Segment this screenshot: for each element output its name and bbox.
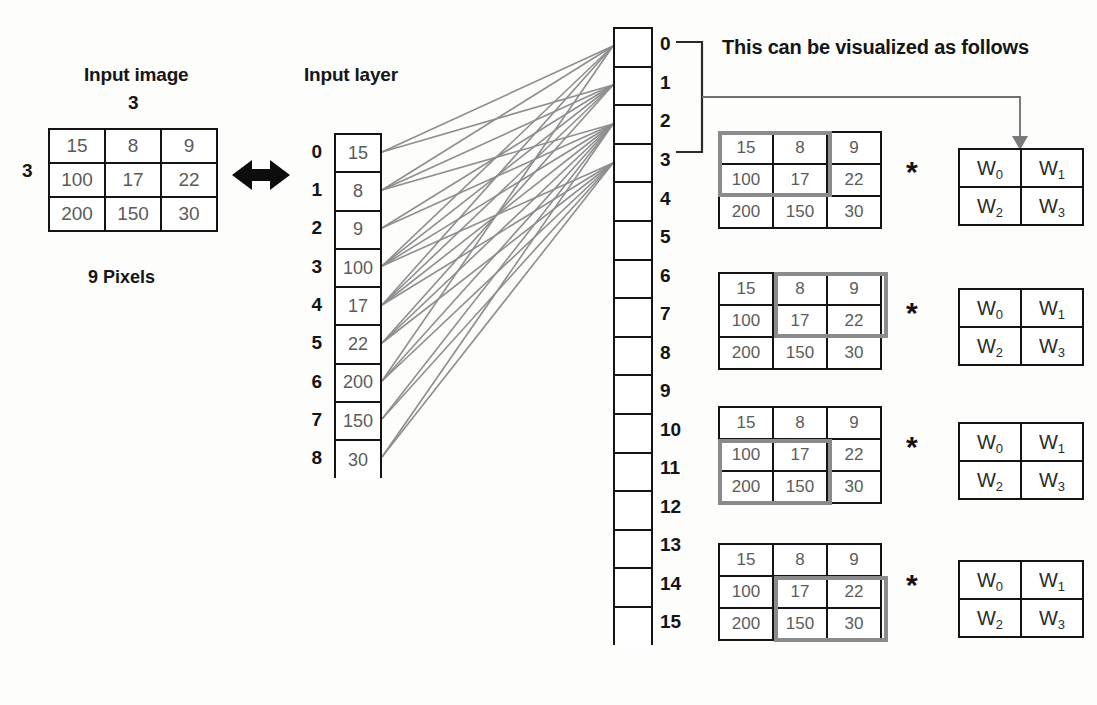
table-row: 100 17 22 [49, 163, 217, 197]
input-image-matrix: 15 8 9 100 17 22 200 150 30 [48, 128, 218, 232]
table-row: 200 150 30 [49, 197, 217, 231]
output-cell-8 [615, 338, 651, 377]
cell-r2c1: 150 [773, 471, 827, 503]
cell-r2c2: 30 [161, 197, 217, 231]
kernel-matrix-1: W0 W1 W2 W3 [958, 148, 1084, 226]
output-index-1: 1 [660, 72, 671, 94]
output-cell-0 [615, 29, 651, 68]
table-row: W0 W1 [959, 561, 1083, 599]
input-layer-index-5: 5 [296, 332, 322, 354]
input-layer-cell-1: 8 [336, 173, 380, 211]
output-cell-4 [615, 183, 651, 222]
multiply-operator-2: * [906, 298, 918, 328]
cell-r0c2: 9 [827, 544, 881, 576]
cell-r0c1: 8 [773, 132, 827, 164]
cell-r2c1: 150 [773, 337, 827, 369]
output-index-2: 2 [660, 110, 671, 132]
input-layer-index-1: 1 [296, 179, 322, 201]
kernel-cell-w3: W3 [1021, 599, 1083, 637]
output-cell-2 [615, 106, 651, 145]
table-row: 15 8 9 [719, 273, 881, 305]
output-index-10: 10 [660, 419, 681, 441]
table-row: W2 W3 [959, 327, 1083, 365]
table-row: 200 150 30 [719, 471, 881, 503]
cell-r0c0: 15 [719, 273, 773, 305]
cell-r0c2: 9 [161, 129, 217, 163]
kernel-cell-w2: W2 [959, 599, 1021, 637]
diagram-canvas: Input image 3 3 15 8 9 100 17 22 200 150… [0, 0, 1097, 705]
table-row: 15 8 9 [719, 544, 881, 576]
output-index-6: 6 [660, 265, 671, 287]
kernel-cell-w1: W1 [1021, 289, 1083, 327]
cell-r2c0: 200 [719, 608, 773, 640]
kernel-cell-w3: W3 [1021, 187, 1083, 225]
output-index-15: 15 [660, 611, 681, 633]
cell-r1c2: 22 [827, 439, 881, 471]
kernel-cell-w3: W3 [1021, 327, 1083, 365]
output-cell-12 [615, 492, 651, 531]
table-row: 100 17 22 [719, 576, 881, 608]
cell-r1c1: 17 [105, 163, 161, 197]
cell-r0c0: 15 [719, 407, 773, 439]
conv-matrix-1: 15 8 9 100 17 22 200 150 30 [718, 131, 882, 229]
output-index-4: 4 [660, 188, 671, 210]
input-layer-column: 15 8 9 100 17 22 200 150 30 [334, 133, 382, 478]
cell-r1c0: 100 [719, 164, 773, 196]
cell-r1c1: 17 [773, 576, 827, 608]
table-row: W2 W3 [959, 461, 1083, 499]
cell-r1c0: 100 [719, 305, 773, 337]
output-cell-10 [615, 415, 651, 454]
output-cell-3 [615, 145, 651, 184]
kernel-cell-w3: W3 [1021, 461, 1083, 499]
cell-r1c2: 22 [827, 305, 881, 337]
conv-matrix-3: 15 8 9 100 17 22 200 150 30 [718, 406, 882, 504]
output-index-7: 7 [660, 303, 671, 325]
cell-r2c0: 200 [719, 337, 773, 369]
output-index-5: 5 [660, 226, 671, 248]
cell-r2c0: 200 [49, 197, 105, 231]
output-cell-14 [615, 569, 651, 608]
kernel-matrix-4: W0 W1 W2 W3 [958, 560, 1084, 638]
cell-r0c1: 8 [773, 273, 827, 305]
table-row: 100 17 22 [719, 164, 881, 196]
table-row: 200 150 30 [719, 608, 881, 640]
cell-r1c2: 22 [827, 576, 881, 608]
kernel-cell-w0: W0 [959, 423, 1021, 461]
table-row: 15 8 9 [719, 407, 881, 439]
output-index-13: 13 [660, 534, 681, 556]
input-image-title: Input image [84, 64, 188, 86]
cell-r1c0: 100 [719, 439, 773, 471]
connector-overlay [0, 0, 1097, 705]
input-layer-cell-7: 150 [336, 403, 380, 441]
input-layer-index-8: 8 [296, 447, 322, 469]
cell-r2c1: 150 [773, 196, 827, 228]
input-layer-title: Input layer [304, 64, 398, 86]
cell-r0c2: 9 [827, 273, 881, 305]
cell-r2c2: 30 [827, 196, 881, 228]
table-row: W2 W3 [959, 187, 1083, 225]
cell-r1c0: 100 [49, 163, 105, 197]
output-cell-1 [615, 68, 651, 107]
input-layer-cell-2: 9 [336, 212, 380, 250]
cell-r0c2: 9 [827, 132, 881, 164]
table-row: W0 W1 [959, 289, 1083, 327]
table-row: 200 150 30 [719, 337, 881, 369]
output-layer-column [613, 27, 653, 645]
cell-r0c0: 15 [49, 129, 105, 163]
table-row: 100 17 22 [719, 305, 881, 337]
cell-r2c2: 30 [827, 337, 881, 369]
kernel-cell-w2: W2 [959, 461, 1021, 499]
input-layer-index-6: 6 [296, 371, 322, 393]
multiply-operator-3: * [906, 432, 918, 462]
input-layer-cell-4: 17 [336, 288, 380, 326]
cell-r0c1: 8 [773, 407, 827, 439]
cell-r2c1: 150 [773, 608, 827, 640]
output-cell-15 [615, 608, 651, 647]
cell-r2c2: 30 [827, 608, 881, 640]
pixel-count-caption: 9 Pixels [88, 267, 155, 288]
cell-r1c2: 22 [161, 163, 217, 197]
table-row: 15 8 9 [719, 132, 881, 164]
input-layer-cell-6: 200 [336, 365, 380, 403]
cell-r1c1: 17 [773, 439, 827, 471]
cell-r1c2: 22 [827, 164, 881, 196]
